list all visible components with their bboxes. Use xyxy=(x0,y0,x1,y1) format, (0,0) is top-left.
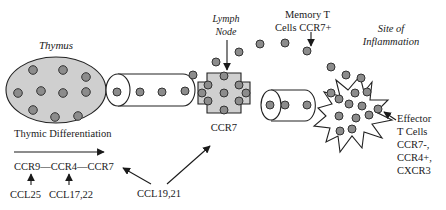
thymus-organ xyxy=(6,57,106,123)
ccl19-21-label: CCL19,21 xyxy=(137,188,181,199)
thymus-label: Thymus xyxy=(39,39,73,51)
lymph-node xyxy=(198,72,250,114)
site-of-inflammation-label-line1: Site of xyxy=(378,23,407,34)
ccl25-label: CCL25 xyxy=(10,189,41,200)
memory-cells-label-line2: Cells CCR7+ xyxy=(275,22,331,33)
site-of-inflammation-label-line2: Inflammation xyxy=(362,36,420,47)
effector-label-line2: T Cells xyxy=(397,126,427,137)
effector-label-line4: CCR4+, xyxy=(397,152,432,163)
effector-label-line1: Effector xyxy=(397,113,432,124)
thymic-differentiation-label: Thymic Differentiation xyxy=(14,128,112,139)
site-of-inflammation xyxy=(314,63,392,152)
memory-cells-label-line1: Memory T xyxy=(285,9,331,20)
chemokine-diagram: Thymus Lymph Node CCR7 Memory T Cells CC… xyxy=(0,0,446,210)
vessel-2 xyxy=(261,90,315,121)
effector-label-line5: CXCR3 xyxy=(397,165,431,176)
ccl19-21-to-lymph-node-ccr7-arrow xyxy=(167,146,210,184)
lymph-node-label-line1: Lymph xyxy=(212,13,240,24)
effector-label-line3: CCR7-, xyxy=(397,139,429,150)
ccl19-21-to-thymic-ccr7-arrow xyxy=(123,168,151,184)
receptor-sequence: CCR9—CCR4—CCR7 xyxy=(14,161,114,172)
vessel-1 xyxy=(106,74,195,106)
ccl17-22-label: CCL17,22 xyxy=(49,189,93,200)
lymph-node-receptor-label: CCR7 xyxy=(211,122,237,133)
lymph-node-label-line2: Node xyxy=(214,26,237,37)
